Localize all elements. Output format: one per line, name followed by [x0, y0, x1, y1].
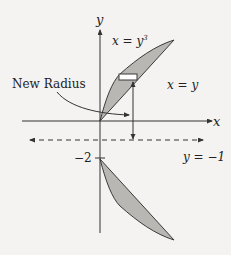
x-axis-label: x — [213, 114, 221, 129]
axis-of-revolution-label: y = −1 — [182, 150, 225, 164]
representative-rectangle — [119, 74, 137, 80]
cubic-curve-label: x = y3 — [112, 34, 148, 48]
minus-two-label: −2 — [74, 151, 92, 165]
lower-region — [100, 159, 174, 240]
diagram-canvas: y x x = y3 x = y New Radius −2 y = −1 — [0, 0, 231, 255]
linear-curve-label: x = y — [167, 78, 198, 92]
radius-arrow-bottom-icon — [131, 134, 136, 140]
y-axis-label: y — [95, 12, 104, 27]
new-radius-label: New Radius — [12, 77, 86, 91]
